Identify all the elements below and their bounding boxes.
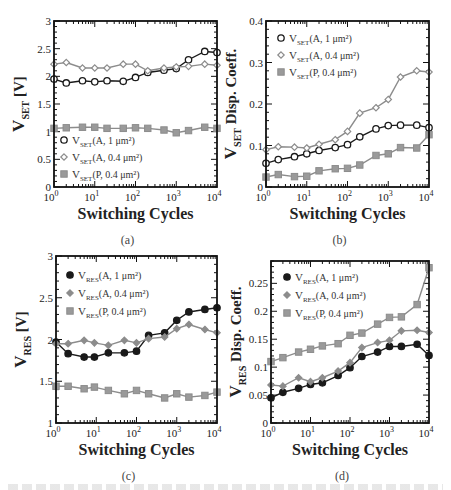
panel-label: (c) xyxy=(122,469,135,483)
y-tick-label: 0.4 xyxy=(249,15,263,27)
diamond-marker xyxy=(374,339,380,345)
circle-marker xyxy=(414,341,420,347)
legend-entry: VSET(A, 1 μm²) xyxy=(72,134,135,149)
circle-marker xyxy=(104,78,110,84)
series-line xyxy=(51,59,220,74)
x-tick-label: 101 xyxy=(296,189,311,203)
figure: 00.511.522.53100101102103104Switching Cy… xyxy=(0,0,451,490)
figure-canvas: 00.511.522.53100101102103104Switching Cy… xyxy=(0,0,451,490)
circle-marker xyxy=(397,122,403,128)
square-marker xyxy=(398,314,404,320)
plot-frame xyxy=(266,21,429,187)
circle-marker xyxy=(295,385,301,391)
y-tick-label: 0.1 xyxy=(249,140,263,152)
legend-entry: VRES(P, 0.4 μm²) xyxy=(295,307,363,322)
x-tick-label: 104 xyxy=(207,189,222,203)
diamond-marker xyxy=(120,61,126,67)
square-marker xyxy=(202,124,208,130)
circle-marker xyxy=(105,350,111,356)
square-marker xyxy=(79,124,85,130)
y-tick-label: 0.2 xyxy=(249,98,263,110)
circle-marker xyxy=(374,349,380,355)
x-tick-label: 100 xyxy=(46,425,61,439)
diamond-marker xyxy=(104,65,110,71)
square-marker xyxy=(397,144,403,150)
legend-entry: VRES(A, 0.4 μm²) xyxy=(295,289,366,304)
series-line xyxy=(263,68,432,153)
square-marker xyxy=(174,391,180,397)
y-tick-label: 0.3 xyxy=(249,57,263,69)
legend-entry: VSET(A, 0.4 μm²) xyxy=(72,151,142,166)
y-tick-label: 2.5 xyxy=(37,43,51,55)
circle-marker xyxy=(63,80,69,86)
diamond-marker xyxy=(91,340,97,346)
y-tick-label: 0.05 xyxy=(249,389,269,401)
diamond-marker xyxy=(67,290,73,296)
circle-marker xyxy=(92,79,98,85)
axis-ticks xyxy=(271,261,429,423)
x-tick-label: 100 xyxy=(261,425,276,439)
y-tick-label: 1.5 xyxy=(39,375,53,387)
x-tick-label: 102 xyxy=(126,425,141,439)
circle-marker xyxy=(291,154,297,160)
legend: VSET(A, 1 μm²)VSET(A, 0.4 μm²)VSET(P, 0.… xyxy=(278,32,360,81)
diamond-marker xyxy=(65,340,71,346)
legend-entry: VSET(A, 1 μm²) xyxy=(289,32,352,47)
square-marker xyxy=(278,69,284,75)
square-marker xyxy=(319,343,325,349)
square-marker xyxy=(121,391,127,397)
diamond-marker xyxy=(186,321,192,327)
circle-marker xyxy=(373,126,379,132)
chart-panel-c: 11.522.53100101102103104Switching Cycles… xyxy=(11,250,222,483)
diamond-marker xyxy=(414,327,420,333)
legend-entry: VSET(P, 0.4 μm²) xyxy=(289,66,357,81)
x-tick-label: 102 xyxy=(340,425,355,439)
square-marker xyxy=(161,395,167,401)
series-line xyxy=(53,383,220,401)
square-marker xyxy=(202,392,208,398)
diamond-marker xyxy=(275,144,281,150)
square-marker xyxy=(132,125,138,131)
circle-marker xyxy=(414,122,420,128)
diamond-marker xyxy=(185,63,191,69)
diamond-marker xyxy=(202,61,208,67)
series-line xyxy=(268,341,432,401)
x-axis-label: Switching Cycles xyxy=(79,441,195,459)
x-axis-label: Switching Cycles xyxy=(78,205,194,223)
diamond-marker xyxy=(92,65,98,71)
square-marker xyxy=(414,301,420,307)
diamond-marker xyxy=(105,342,111,348)
x-tick-label: 103 xyxy=(378,189,393,203)
y-tick-label: 0.2 xyxy=(254,305,268,317)
y-tick-label: 1.5 xyxy=(37,98,51,110)
x-tick-label: 101 xyxy=(300,425,315,439)
circle-marker xyxy=(79,78,85,84)
chart-panel-b: 00.10.20.30.4100101102103104Switching Cy… xyxy=(221,15,434,247)
diamond-marker xyxy=(284,292,290,298)
diamond-marker xyxy=(304,145,310,151)
square-marker xyxy=(91,384,97,390)
square-marker xyxy=(386,314,392,320)
diamond-marker xyxy=(291,144,297,150)
square-marker xyxy=(105,387,111,393)
square-marker xyxy=(186,394,192,400)
square-marker xyxy=(63,125,69,131)
circle-marker xyxy=(67,272,73,278)
legend-entry: VSET(A, 0.4 μm²) xyxy=(289,49,359,64)
diamond-marker xyxy=(414,68,420,74)
y-axis-label: VSET Disp. Coeff. xyxy=(221,49,243,160)
legend: VRES(A, 1 μm²)VRES(A, 0.4 μm²)VRES(P, 0.… xyxy=(67,269,149,320)
square-marker xyxy=(65,383,71,389)
square-marker xyxy=(284,310,290,316)
diamond-marker xyxy=(121,337,127,343)
legend: VRES(A, 1 μm²)VRES(A, 0.4 μm²)VRES(P, 0.… xyxy=(284,271,366,322)
square-marker xyxy=(316,168,322,174)
x-tick-label: 101 xyxy=(84,189,99,203)
y-axis-label: VSET [V] xyxy=(9,76,31,132)
square-marker xyxy=(344,165,350,171)
chart-panel-a: 00.511.522.53100101102103104Switching Cy… xyxy=(9,15,222,247)
circle-marker xyxy=(81,354,87,360)
diamond-marker xyxy=(397,74,403,80)
square-marker xyxy=(291,173,297,179)
square-marker xyxy=(275,171,281,177)
